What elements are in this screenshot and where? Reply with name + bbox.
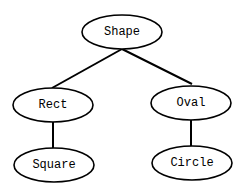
node-circle: Circle [152, 146, 232, 180]
node-square: Square [14, 148, 94, 182]
node-oval-label: Oval [177, 96, 206, 110]
class-hierarchy-diagram: Shape Rect Oval Square Circle [0, 0, 246, 194]
node-rect-label: Rect [39, 98, 68, 112]
node-rect: Rect [13, 88, 93, 122]
node-oval: Oval [151, 86, 231, 120]
node-circle-label: Circle [170, 156, 213, 170]
edge-shape-oval [122, 49, 192, 84]
node-shape-label: Shape [104, 25, 140, 39]
edge-shape-rect [52, 49, 122, 88]
node-shape: Shape [82, 15, 162, 49]
node-square-label: Square [32, 158, 75, 172]
